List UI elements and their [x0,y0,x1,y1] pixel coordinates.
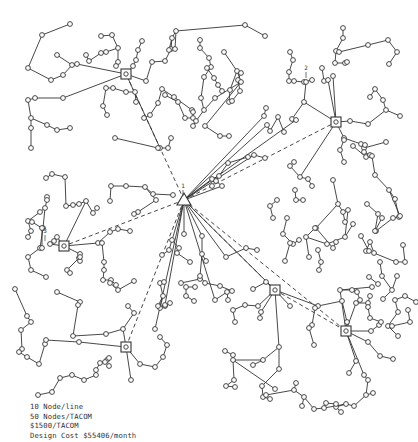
tree-edges [15,24,416,412]
concentrator-icon [341,326,351,336]
terminal-nodes [13,22,418,415]
concentrator-icon [121,69,131,79]
design-caption: 10 Node/line 50 Nodes/TACOM $1500/TACOM … [30,402,136,440]
concentrator-icon [270,285,280,295]
node-number-label: 2 [304,64,308,71]
caption-cost-per-tacom: $1500/TACOM [30,421,136,431]
node-number-label: 1 [181,182,185,189]
network-diagram: 231 [0,0,418,442]
node-number-label: 3 [43,227,47,234]
concentrator-icon [331,117,341,127]
caption-nodes-per-tacom: 50 Nodes/TACOM [30,412,136,422]
caption-design-cost: Design Cost $55406/month [30,431,136,441]
concentrator-icon [121,342,131,352]
caption-nodes-per-line: 10 Node/line [30,402,136,412]
concentrator-icon [59,241,69,251]
